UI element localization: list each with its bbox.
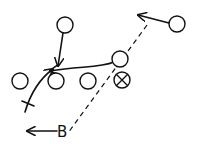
curved-arrow-t-up — [25, 69, 53, 112]
curved-arrow-mid-left — [50, 62, 114, 71]
player-circle-top-right — [169, 16, 185, 32]
label-b: B — [57, 123, 67, 141]
player-circle-row-1 — [12, 73, 28, 89]
arrow-top-down — [58, 33, 63, 66]
player-circle-mid-right — [112, 51, 128, 67]
player-circle-row-3 — [80, 73, 96, 89]
x-player-icon — [114, 72, 130, 88]
player-circle-row-2 — [48, 73, 64, 89]
player-circle-top — [57, 17, 73, 33]
play-diagram: B — [0, 0, 199, 146]
arrow-top-right-left — [138, 15, 169, 23]
